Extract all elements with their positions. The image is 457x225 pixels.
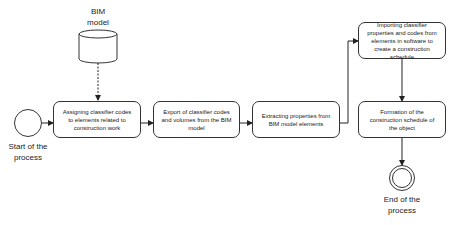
start-label-line1: Start of the [0,141,56,152]
end-event-label: End of the process [374,194,430,216]
start-event-label: Start of the process [0,141,56,163]
task-label: Importing classifier properties and code… [365,21,439,61]
database-cylinder-icon [79,30,117,63]
task-label: Export of classifier codes and volumes f… [160,108,233,132]
task-label: Formation of the construction schedule o… [365,108,439,132]
start-event[interactable] [14,109,42,137]
end-label-line2: process [374,205,430,216]
task-form-schedule[interactable]: Formation of the construction schedule o… [358,101,446,138]
task-assign-codes[interactable]: Assigning classifier codes to elements r… [53,101,141,138]
end-label-line1: End of the [374,194,430,205]
data-store-label: BIM model [73,6,123,28]
data-store-label-line1: BIM [73,6,123,17]
task-label: Extracting properties from BIM model ele… [259,112,333,128]
task-import-properties[interactable]: Importing classifier properties and code… [358,22,446,59]
end-event[interactable] [389,165,415,191]
end-event-inner-ring [392,168,412,188]
data-store-label-line2: model [73,17,123,28]
task-export-codes[interactable]: Export of classifier codes and volumes f… [153,101,240,138]
start-label-line2: process [0,152,56,163]
task-label: Assigning classifier codes to elements r… [60,108,134,132]
task-extract-properties[interactable]: Extracting properties from BIM model ele… [252,101,340,138]
flow-task3-to-task4 [340,41,358,123]
